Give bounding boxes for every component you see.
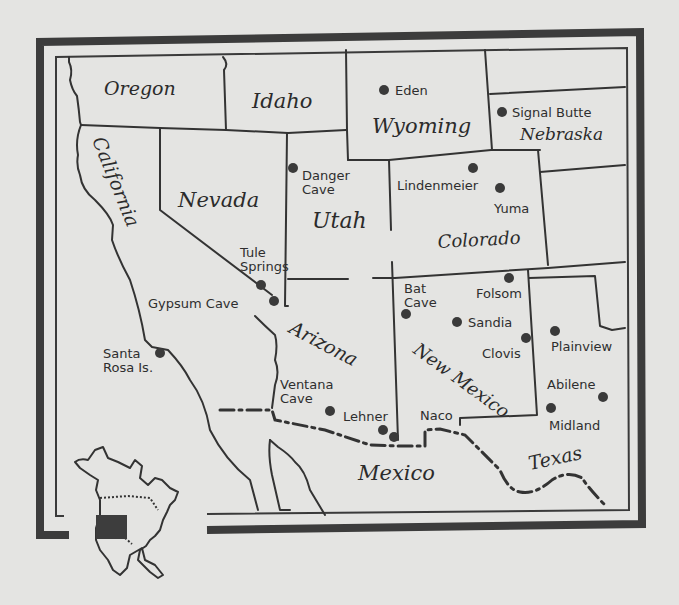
site-dot-icon <box>468 163 478 173</box>
state-label-utah: Utah <box>312 208 367 233</box>
site-label: Clovis <box>482 346 521 361</box>
site-dot-icon <box>325 406 335 416</box>
site-plainview: Plainview <box>550 326 613 354</box>
site-signal-butte: Signal Butte <box>497 105 591 120</box>
state-label-arizona: Arizona <box>284 315 361 370</box>
site-label: Tule <box>239 245 266 260</box>
state-label-colorado: Colorado <box>437 227 521 252</box>
site-label: Lehner <box>343 409 388 424</box>
site-midland: Midland <box>546 403 600 433</box>
site-label: Eden <box>395 83 428 98</box>
site-dot-icon <box>389 432 399 442</box>
site-dot-icon <box>452 317 462 327</box>
site-santa-rosa-is: SantaRosa Is. <box>103 346 165 375</box>
site-dot-icon <box>598 392 608 402</box>
site-danger-cave: DangerCave <box>288 163 350 197</box>
site-label: Danger <box>302 168 350 183</box>
state-label-nebraska: Nebraska <box>519 124 603 144</box>
site-label: Cave <box>280 391 313 406</box>
site-gypsum-cave: Gypsum Cave <box>148 296 279 311</box>
site-dot-icon <box>155 348 165 358</box>
site-label: Plainview <box>551 339 613 354</box>
state-label-california: California <box>88 133 144 230</box>
site-dot-icon <box>269 296 279 306</box>
site-naco: Naco <box>389 408 453 442</box>
site-dot-icon <box>550 326 560 336</box>
site-label: Signal Butte <box>512 105 591 120</box>
site-label: Abilene <box>547 377 596 392</box>
site-label: Rosa Is. <box>103 360 153 375</box>
site-label: Bat <box>404 281 426 296</box>
site-abilene: Abilene <box>547 377 608 402</box>
site-label: Naco <box>420 408 453 423</box>
site-ventana-cave: VentanaCave <box>280 377 335 416</box>
site-dot-icon <box>256 280 266 290</box>
site-label: Santa <box>103 346 141 361</box>
site-label: Folsom <box>476 286 522 301</box>
site-label: Ventana <box>280 377 333 392</box>
site-label: Midland <box>549 418 600 433</box>
site-clovis: Clovis <box>482 333 531 361</box>
site-bat-cave: BatCave <box>401 281 437 319</box>
site-lindenmeier: Lindenmeier <box>397 163 479 193</box>
site-label: Gypsum Cave <box>148 296 239 311</box>
site-dot-icon <box>401 309 411 319</box>
site-dot-icon <box>379 85 389 95</box>
map-canvas: OregonIdahoWyomingNebraskaCaliforniaNeva… <box>0 0 679 605</box>
site-dot-icon <box>504 273 514 283</box>
site-dot-icon <box>546 403 556 413</box>
site-sandia: Sandia <box>452 315 512 330</box>
site-folsom: Folsom <box>476 273 522 301</box>
state-label-wyoming: Wyoming <box>372 114 471 138</box>
site-label: Yuma <box>493 201 529 216</box>
inset-study-area-highlight <box>96 515 127 539</box>
state-label-oregon: Oregon <box>104 77 176 99</box>
site-lehner: Lehner <box>343 409 388 435</box>
site-label: Sandia <box>468 315 512 330</box>
site-dot-icon <box>521 333 531 343</box>
state-label-nevada: Nevada <box>177 188 259 212</box>
site-label: Cave <box>404 295 437 310</box>
site-yuma: Yuma <box>493 183 529 216</box>
state-label-texas: Texas <box>526 441 584 474</box>
inset-north-america-map <box>75 447 178 578</box>
state-label-idaho: Idaho <box>251 89 312 113</box>
site-label: Springs <box>240 259 289 274</box>
site-tule-springs: TuleSprings <box>239 245 289 290</box>
site-label: Lindenmeier <box>397 178 479 193</box>
site-dot-icon <box>497 107 507 117</box>
site-eden: Eden <box>379 83 428 98</box>
site-label: Cave <box>302 182 335 197</box>
site-dot-icon <box>288 163 298 173</box>
state-label-mexico: Mexico <box>357 461 435 485</box>
site-dot-icon <box>495 183 505 193</box>
site-dot-icon <box>378 425 388 435</box>
